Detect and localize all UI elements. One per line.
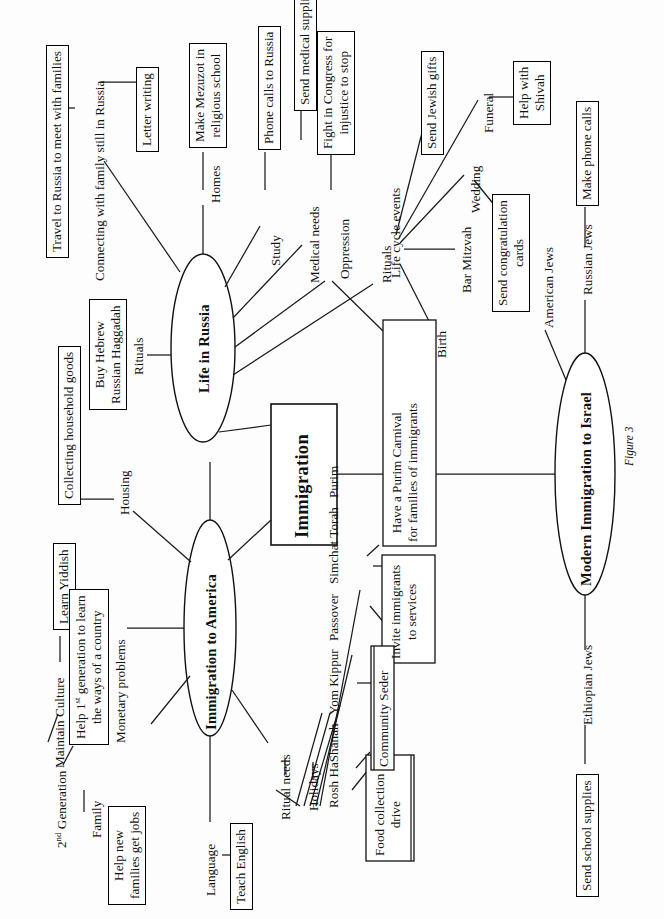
concept-map-figure: Life in Russia Travel to Russia to meet … — [0, 0, 664, 919]
node-yom-kippur[interactable]: Yom Kippur — [326, 647, 342, 717]
node-family[interactable]: Family — [89, 799, 105, 840]
edge-purim-to-carnival — [367, 545, 379, 556]
node-rosh-hashanah[interactable]: Rosh HaShanah — [326, 721, 342, 810]
node-letter-writing[interactable]: Letter writing — [136, 67, 159, 152]
node-phone-calls-to-russia[interactable]: Phone calls to Russia — [258, 26, 281, 150]
node-american-jews[interactable]: American Jews — [541, 245, 557, 330]
edge-america-housing — [133, 511, 191, 562]
node-simchat-torah[interactable]: Simchat Torah — [326, 505, 342, 586]
edge-russia-study — [225, 226, 260, 287]
node-connecting-with-family[interactable]: Connecting with family still in Russia — [92, 79, 108, 283]
node-invite-immigrants-to-services[interactable]: Invite immigrants to services — [388, 565, 419, 659]
edge-russia-oppression — [235, 281, 325, 347]
node-make-phone-calls[interactable]: Make phone calls — [576, 101, 599, 206]
node-language[interactable]: Language — [203, 842, 219, 898]
node-help-new-families-get-jobs[interactable]: Help new families get jobs — [108, 806, 146, 905]
node-passover[interactable]: Passover — [326, 592, 342, 643]
edge-russia-connecting-family — [104, 161, 180, 272]
node-help-first-generation[interactable]: Help 1st generation to learn the ways of… — [69, 589, 109, 745]
node-send-school-supplies[interactable]: Send school supplies — [576, 774, 599, 897]
node-food-collection-drive[interactable]: Food collection drive — [372, 774, 403, 856]
node-life-in-russia[interactable]: Life in Russia — [196, 302, 213, 395]
node-medical-needs[interactable]: Medical needs — [307, 204, 323, 285]
node-travel-to-russia[interactable]: Travel to Russia to meet with families — [46, 45, 69, 258]
node-send-congratulation-cards[interactable]: Send congratulation cards — [492, 194, 530, 312]
node-immigration-to-america[interactable]: Immigration to America — [203, 572, 220, 732]
node-send-jewish-gifts[interactable]: Send Jewish gifts — [421, 51, 444, 155]
node-wedding[interactable]: Wedding — [468, 164, 484, 215]
edge-america-family — [151, 676, 190, 724]
node-housing[interactable]: Housing — [117, 468, 133, 517]
node-have-purim-carnival[interactable]: Have a Purim Carnival for families of im… — [389, 403, 420, 542]
edge-immigration-to-america — [228, 520, 271, 560]
node-holidays[interactable]: Holidays — [306, 761, 322, 813]
edge-lifecycle-to-birth — [400, 264, 432, 327]
node-bar-mitzvah[interactable]: Bar Mitzvah — [459, 225, 475, 295]
edge-immigration-to-life-in-russia — [219, 425, 271, 432]
node-rituals-label[interactable]: Rituals — [131, 336, 147, 377]
node-monetary-problems[interactable]: Monetary problems — [113, 637, 129, 745]
node-fight-in-congress[interactable]: Fight in Congress for injustice to stop — [317, 31, 355, 155]
node-second-generation[interactable]: 2nd Generation — [53, 769, 70, 850]
node-make-mezuzot[interactable]: Make Mezuzot in religious school — [189, 43, 227, 148]
node-buy-hebrew-russian-haggadah[interactable]: Buy Hebrew Russian Haggadah — [89, 299, 127, 410]
node-teach-english[interactable]: Teach English — [230, 823, 253, 910]
node-study[interactable]: Study — [268, 233, 284, 268]
node-collecting-household-goods[interactable]: Collecting household goods — [58, 346, 81, 505]
node-modern-immigration-to-israel[interactable]: Modern Immigration to Israel — [578, 390, 595, 588]
node-homes[interactable]: Homes — [208, 164, 224, 205]
node-help-with-shivah[interactable]: Help with Shivah — [513, 61, 551, 125]
node-maintain-culture[interactable]: Maintain Culture — [52, 676, 68, 770]
node-life-cycle-events[interactable]: Life cycle events — [388, 186, 404, 280]
node-send-medical-supplies[interactable]: Send medical supplies — [294, 0, 317, 111]
node-oppression[interactable]: Oppression — [337, 217, 353, 281]
node-community-seder[interactable]: Community Seder — [376, 671, 392, 767]
node-birth[interactable]: Birth — [434, 329, 450, 360]
edge-israel-american-jews — [545, 330, 566, 380]
node-russian-jews[interactable]: Russian Jews — [580, 222, 596, 297]
node-funeral[interactable]: Funeral — [481, 91, 497, 135]
figure-caption: Figure 3 — [623, 425, 637, 469]
edge-lifecycle-to-wedding — [400, 175, 464, 243]
edge-america-ritual-needs — [232, 690, 268, 743]
node-purim[interactable]: Purim — [326, 464, 342, 500]
node-immigration[interactable]: Immigration — [292, 432, 314, 540]
node-ritual-needs[interactable]: Ritual needs — [278, 752, 294, 822]
node-ethiopian-jews[interactable]: Ethiopian Jews — [580, 643, 596, 727]
